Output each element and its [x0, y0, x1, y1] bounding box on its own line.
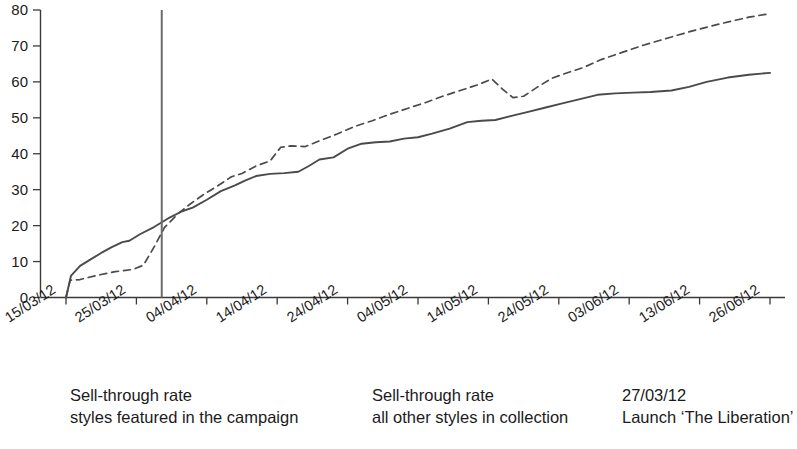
- y-tick-label: 30: [2, 181, 28, 198]
- legend-campaign-line1: Sell-through rate: [70, 386, 192, 404]
- legend-other-line2: all other styles in collection: [372, 406, 568, 428]
- legend-campaign-line2: styles featured in the campaign: [70, 406, 298, 428]
- series-line-other-styles: [66, 73, 770, 298]
- y-tick-label: 70: [2, 37, 28, 54]
- y-tick-label: 10: [2, 253, 28, 270]
- y-axis-ticks: [33, 10, 41, 298]
- legend-label-launch: 27/03/12 Launch ‘The Liberation’: [622, 384, 794, 428]
- series-line-campaign-styles: [66, 14, 770, 298]
- legend-label-campaign: Sell-through rate styles featured in the…: [70, 384, 298, 428]
- legend-label-other-styles: Sell-through rate all other styles in co…: [372, 384, 568, 428]
- sell-through-rate-chart: 01020304050607080 15/03/1225/03/1204/04/…: [0, 0, 797, 449]
- y-tick-label: 40: [2, 145, 28, 162]
- y-tick-label: 50: [2, 109, 28, 126]
- y-tick-label: 80: [2, 1, 28, 18]
- data-series-group: [66, 10, 770, 298]
- chart-legend: Sell-through rate styles featured in the…: [0, 384, 797, 449]
- plot-area: [0, 0, 797, 449]
- legend-launch-line2: Launch ‘The Liberation’: [622, 406, 794, 428]
- legend-other-line1: Sell-through rate: [372, 386, 494, 404]
- y-tick-label: 60: [2, 73, 28, 90]
- legend-launch-line1: 27/03/12: [622, 386, 686, 404]
- y-tick-label: 20: [2, 217, 28, 234]
